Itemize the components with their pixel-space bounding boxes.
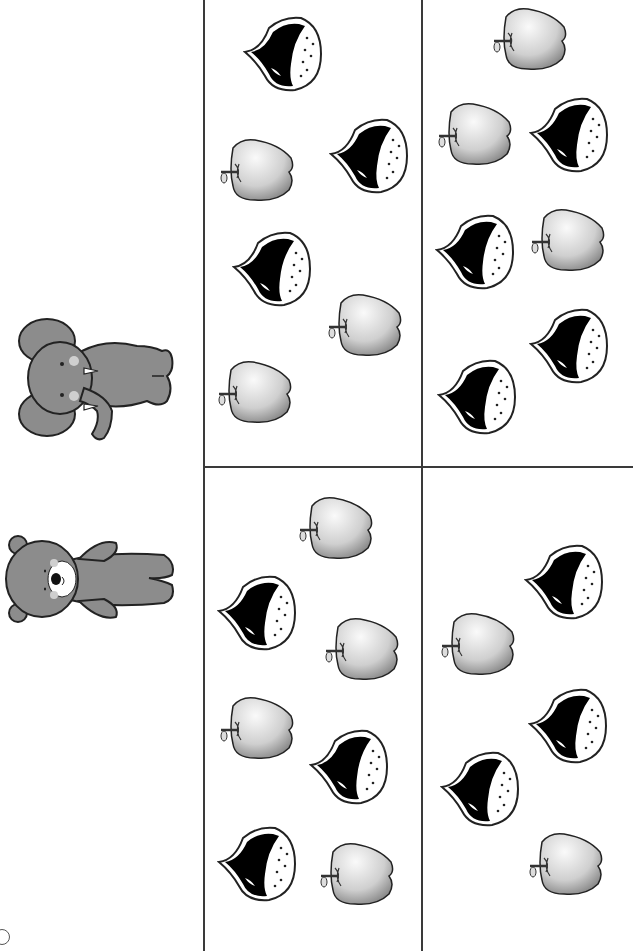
white-apple-icon: [298, 494, 374, 566]
bear-icon: bear: [4, 533, 176, 629]
white-apple-icon: [440, 610, 516, 682]
black-apple-icon: [524, 542, 604, 624]
white-apple-icon: [437, 100, 513, 172]
white-apple-icon: [528, 830, 604, 902]
white-apple-icon: [530, 206, 606, 278]
black-apple-icon: [243, 14, 323, 96]
grid-divider-right: [421, 0, 423, 951]
white-apple-icon: [319, 840, 395, 912]
elephant-icon: elephant: [12, 316, 174, 446]
white-apple-icon: [219, 136, 295, 208]
white-apple-icon: [327, 291, 403, 363]
white-apple-icon: [492, 5, 568, 77]
white-apple-icon: [219, 694, 295, 766]
corner-registration-mark: [0, 929, 10, 945]
grid-divider-left: [203, 0, 205, 951]
white-apple-icon: [217, 358, 293, 430]
black-apple-icon: [440, 749, 520, 831]
worksheet: elephant bear: [0, 0, 633, 951]
black-apple-icon: [529, 95, 609, 177]
white-apple-icon: [324, 615, 400, 687]
black-apple-icon: [329, 116, 409, 198]
black-apple-icon: [217, 573, 297, 655]
black-apple-icon: [232, 229, 312, 311]
black-apple-icon: [437, 357, 517, 439]
black-apple-icon: [309, 727, 389, 809]
black-apple-icon: [435, 212, 515, 294]
black-apple-icon: [529, 306, 609, 388]
black-apple-icon: [217, 824, 297, 906]
grid-divider-horizontal: [203, 466, 633, 468]
black-apple-icon: [528, 686, 608, 768]
